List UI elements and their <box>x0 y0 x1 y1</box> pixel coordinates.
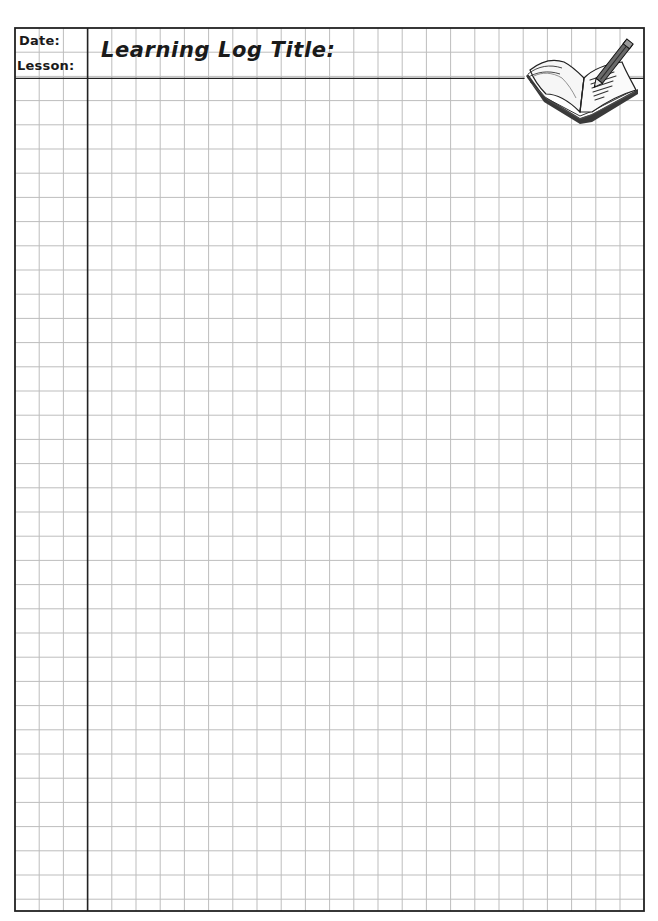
learning-log-title: Learning Log Title: <box>101 38 336 62</box>
open-book-with-pencil-icon <box>522 32 644 126</box>
learning-log-page: Date: Lesson: Learning Log Title: <box>0 0 658 921</box>
graph-paper-grid <box>0 0 658 921</box>
lesson-label: Lesson: <box>17 58 74 73</box>
date-label: Date: <box>19 33 60 48</box>
